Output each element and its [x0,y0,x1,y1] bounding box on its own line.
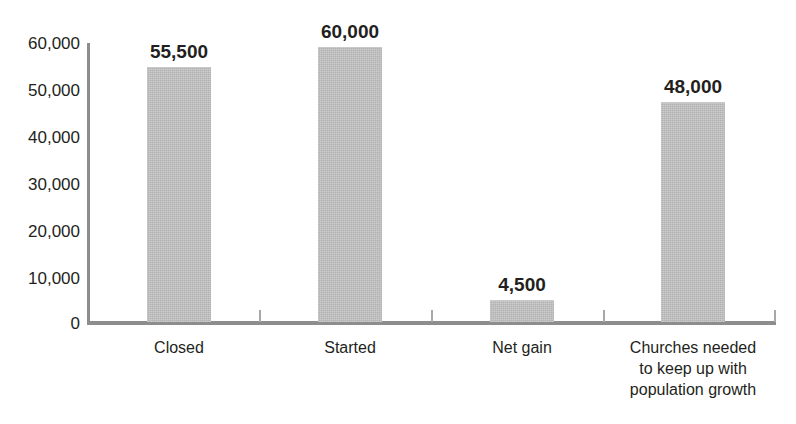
category-tick [774,310,776,322]
category-label-started: Started [270,337,430,358]
category-label-net-gain: Net gain [442,337,602,358]
category-tick [259,310,261,322]
y-axis-line [87,43,90,324]
category-tick [431,310,433,322]
y-tick-label: 60,000 [2,35,80,52]
y-axis-tick-labels: 60,000 50,000 40,000 30,000 20,000 10,00… [0,0,80,424]
bar-value-label: 55,500 [99,42,259,62]
y-tick-label: 10,000 [2,270,80,287]
y-tick-label: 20,000 [2,223,80,240]
category-label-churches-needed: Churches needed to keep up with populati… [608,337,778,400]
category-label-line: Started [270,337,430,358]
y-tick-label: 30,000 [2,176,80,193]
category-label-line: Closed [99,337,259,358]
bar-churches-needed [661,102,725,322]
bar-started [318,47,382,322]
category-tick [603,310,605,322]
bar-value-label: 48,000 [613,77,773,97]
category-label-line: Net gain [442,337,602,358]
category-label-line: Churches needed [608,337,778,358]
plot-area: 60,000 50,000 40,000 30,000 20,000 10,00… [0,0,796,424]
category-label-line: population growth [608,379,778,400]
bar-value-label: 60,000 [270,22,430,42]
bar-net-gain [490,300,554,322]
category-label-closed: Closed [99,337,259,358]
category-label-line: to keep up with [608,358,778,379]
y-tick-label: 40,000 [2,129,80,146]
y-tick-label: 0 [2,315,80,332]
y-tick-label: 50,000 [2,82,80,99]
bar-closed [147,67,211,322]
bar-chart: 60,000 50,000 40,000 30,000 20,000 10,00… [0,0,796,424]
bar-value-label: 4,500 [442,275,602,295]
